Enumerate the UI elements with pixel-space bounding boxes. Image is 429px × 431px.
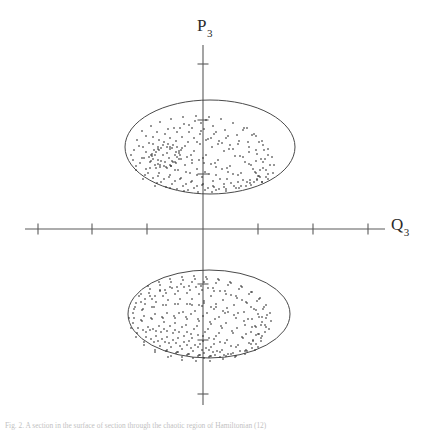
lower-region-point	[132, 322, 133, 323]
upper-region-point	[196, 141, 197, 142]
upper-region-point	[204, 189, 205, 190]
lower-region-point	[154, 349, 155, 350]
upper-region-point	[229, 144, 230, 145]
island-region-point	[179, 154, 180, 155]
upper-region-point	[189, 172, 190, 173]
upper-region-point	[154, 154, 155, 155]
upper-region-point	[174, 154, 175, 155]
lower-region-point	[177, 290, 178, 291]
lower-region-point	[260, 340, 261, 341]
upper-region-point	[225, 188, 226, 189]
upper-region-point	[263, 149, 264, 150]
lower-region-point	[258, 298, 259, 299]
lower-region-point	[265, 304, 266, 305]
lower-region-point	[190, 333, 191, 334]
upper-region-point	[135, 169, 136, 170]
island-region-point	[159, 166, 160, 167]
lower-region-point	[169, 286, 170, 287]
lower-region-point	[153, 306, 154, 307]
lower-region-point	[174, 317, 175, 318]
lower-region-point	[179, 298, 180, 299]
lower-region-point	[244, 324, 245, 325]
lower-region-point	[178, 312, 179, 313]
island-region-point	[167, 143, 168, 144]
lower-region-point	[255, 343, 256, 344]
upper-region-point	[174, 169, 175, 170]
upper-region-point	[176, 131, 177, 132]
lower-region-point	[161, 316, 162, 317]
lower-region-point	[260, 337, 261, 338]
lower-region-point	[257, 313, 258, 314]
upper-region-point	[232, 122, 233, 123]
lower-region-point	[193, 275, 194, 276]
lower-region-point	[186, 331, 187, 332]
upper-region-point	[260, 158, 261, 159]
lower-region-point	[213, 343, 214, 344]
upper-region-point	[185, 183, 186, 184]
lower-region-point	[244, 353, 245, 354]
lower-region-point	[194, 344, 195, 345]
upper-region-point	[248, 163, 249, 164]
lower-region-point	[253, 308, 254, 309]
lower-region-point	[225, 355, 226, 356]
upper-region-point	[162, 154, 163, 155]
lower-region-point	[224, 342, 225, 343]
lower-region-point	[183, 335, 184, 336]
lower-region-point	[130, 327, 131, 328]
lower-region-point	[173, 315, 174, 316]
upper-region-point	[258, 141, 259, 142]
lower-region-point	[270, 320, 271, 321]
upper-region-point	[265, 169, 266, 170]
lower-region-point	[216, 350, 217, 351]
upper-region-point	[179, 178, 180, 179]
lower-region-point	[241, 299, 242, 300]
lower-region-point	[241, 336, 242, 337]
upper-region-point	[218, 188, 219, 189]
lower-region-point	[196, 325, 197, 326]
upper-region-point	[163, 141, 164, 142]
island-region-point	[172, 144, 173, 145]
lower-region-point	[166, 336, 167, 337]
upper-region-point	[195, 115, 196, 116]
lower-region-point	[170, 346, 171, 347]
lower-region-point	[154, 351, 155, 352]
upper-region-point	[139, 162, 140, 163]
lower-region-point	[142, 329, 143, 330]
upper-region-point	[242, 179, 243, 180]
lower-region-point	[250, 331, 251, 332]
figure-caption: Fig. 2. A section in the surface of sect…	[5, 421, 429, 430]
lower-region-point	[239, 350, 240, 351]
lower-region-point	[143, 315, 144, 316]
upper-region-point	[238, 187, 239, 188]
upper-region-point	[232, 148, 233, 149]
lower-region-point	[256, 300, 257, 301]
lower-region-point	[167, 299, 168, 300]
lower-region-point	[264, 331, 265, 332]
island-region-point	[154, 164, 155, 165]
upper-region-point	[218, 140, 219, 141]
lower-region-point	[128, 317, 129, 318]
island-region-point	[163, 165, 164, 166]
upper-region-point	[184, 145, 185, 146]
upper-region-point	[159, 164, 160, 165]
lower-region-point	[214, 318, 215, 319]
upper-region-point	[190, 154, 191, 155]
lower-region-point	[183, 341, 184, 342]
lower-region-point	[198, 304, 199, 305]
island-region-point	[157, 146, 158, 147]
lower-region-point	[261, 321, 262, 322]
lower-region-point	[181, 276, 182, 277]
upper-region-point	[227, 135, 228, 136]
upper-region-point	[223, 183, 224, 184]
lower-region-point	[183, 286, 184, 287]
lower-region-point	[247, 318, 248, 319]
upper-region-point	[159, 121, 160, 122]
lower-region-point	[159, 290, 160, 291]
lower-region-point	[243, 320, 244, 321]
lower-region-point	[174, 329, 175, 330]
upper-region-point	[200, 122, 201, 123]
lower-region-point	[231, 330, 232, 331]
lower-region-point	[186, 303, 187, 304]
upper-region-point	[272, 172, 273, 173]
lower-region-point	[172, 332, 173, 333]
